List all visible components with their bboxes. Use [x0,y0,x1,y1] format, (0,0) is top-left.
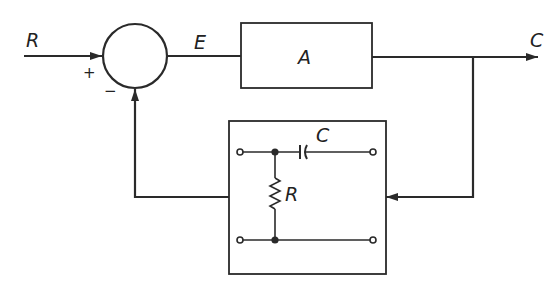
rc-network [237,145,376,243]
node-dot-top [272,149,278,155]
resistor-label: R [285,183,298,205]
terminal-top-left [237,149,243,155]
capacitor-label: C [316,124,330,146]
input-label: R [26,29,39,51]
feedback-branch-line [386,57,473,197]
block-diagram: R + − E A C C R [0,0,557,288]
summing-junction [103,24,167,88]
error-label: E [194,31,206,53]
node-dot-bottom [272,237,278,243]
minus-sign: − [104,82,117,100]
feedback-return-arrow [135,89,229,197]
feedback-network-box [229,121,386,274]
terminal-top-right [370,149,376,155]
resistor-icon [270,178,280,209]
plus-sign: + [83,64,96,82]
forward-block-label: A [296,46,311,68]
terminal-bottom-right [370,237,376,243]
terminal-bottom-left [237,237,243,243]
output-label: C [530,29,544,51]
